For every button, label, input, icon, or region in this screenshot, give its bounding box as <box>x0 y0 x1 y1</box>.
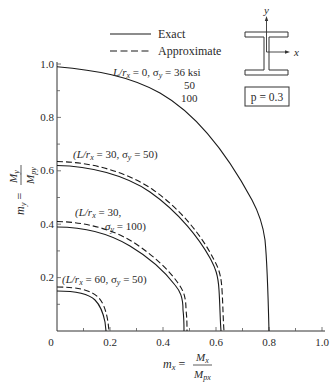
inset-y-label: y <box>263 4 269 16</box>
x-axis-label: mx = Mx Mpx <box>163 351 212 382</box>
svg-text:0.2: 0.2 <box>103 336 117 348</box>
svg-text:(L/rx = 60, σy = 50): (L/rx = 60, σy = 50) <box>62 273 147 287</box>
svg-text:0.2: 0.2 <box>40 271 54 283</box>
svg-text:0.8: 0.8 <box>262 336 276 348</box>
y-tick-labels: 0.2 0.4 0.6 0.8 1.0 <box>40 58 54 283</box>
svg-text:0.4: 0.4 <box>40 218 54 230</box>
svg-text:My: My <box>7 170 21 184</box>
x-tick-labels: 0 0.2 0.4 0.6 0.8 1.0 <box>48 336 329 348</box>
svg-text:1.0: 1.0 <box>315 336 329 348</box>
svg-text:Mpx: Mpx <box>193 368 211 382</box>
curve-lr30-s50-approx <box>57 162 224 332</box>
svg-text:σy = 100): σy = 100) <box>105 220 146 234</box>
curves <box>57 67 269 331</box>
curve-lr60-s50-exact <box>57 291 106 331</box>
y-ticks <box>57 64 61 304</box>
legend-approx-label: Approximate <box>158 44 221 58</box>
svg-text:0.6: 0.6 <box>209 336 223 348</box>
svg-text:0.8: 0.8 <box>40 111 54 123</box>
x-ticks <box>84 327 323 331</box>
svg-text:1.0: 1.0 <box>40 58 54 70</box>
annotation-lr60-s50: (L/rx = 60, σy = 50) <box>62 273 147 287</box>
svg-text:p = 0.3: p = 0.3 <box>251 91 284 104</box>
annotation-lr0: L/rx = 0, σy = 36 ksi 50 100 <box>112 66 201 104</box>
svg-text:my =: my = <box>13 193 28 215</box>
svg-text:L/rx = 0, σy = 36 ksi: L/rx = 0, σy = 36 ksi <box>112 66 201 80</box>
svg-text:0.6: 0.6 <box>40 164 54 176</box>
svg-text:Mpy: Mpy <box>24 167 38 185</box>
inset-x-label: x <box>293 46 299 58</box>
i-section-inset <box>245 16 290 75</box>
svg-text:(L/rx = 30,: (L/rx = 30, <box>75 206 121 220</box>
svg-text:0: 0 <box>48 336 54 348</box>
svg-text:mx =: mx = <box>163 357 185 372</box>
legend-exact-label: Exact <box>158 27 186 41</box>
svg-text:0.4: 0.4 <box>156 336 170 348</box>
interaction-chart: 0 0.2 0.4 0.6 0.8 1.0 0.2 0.4 0.6 0.8 1.… <box>0 0 335 383</box>
p-box: p = 0.3 <box>245 87 289 106</box>
svg-text:(L/rx = 30, σy = 50): (L/rx = 30, σy = 50) <box>73 148 158 162</box>
annotation-lr30-s50: (L/rx = 30, σy = 50) <box>73 148 158 162</box>
svg-text:100: 100 <box>181 92 198 104</box>
curve-lr30-s50-exact <box>57 166 221 332</box>
legend: Exact Approximate <box>110 27 221 58</box>
svg-text:50: 50 <box>184 79 196 91</box>
svg-text:Mx: Mx <box>195 351 209 365</box>
y-axis-label: my = My Mpy <box>7 165 38 215</box>
